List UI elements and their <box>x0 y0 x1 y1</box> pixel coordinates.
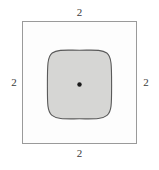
dimension-label-left: 2 <box>9 77 19 88</box>
dimension-label-top: 2 <box>0 7 159 18</box>
center-dot-icon <box>77 82 81 86</box>
figure-canvas <box>0 0 159 170</box>
geometry-figure: 2 2 2 2 <box>0 0 159 170</box>
dimension-label-right: 2 <box>141 77 151 88</box>
dimension-label-bottom: 2 <box>0 148 159 159</box>
